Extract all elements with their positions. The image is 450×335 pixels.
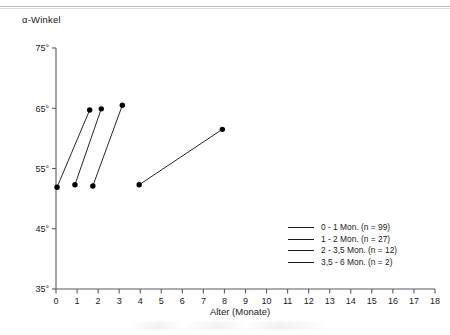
- x-axis-tick-label: 13: [325, 296, 335, 306]
- y-axis-tick-label: 55°: [35, 164, 49, 174]
- x-axis-tick-label: 18: [430, 296, 440, 306]
- x-axis-tick-label: 9: [243, 296, 248, 306]
- x-axis-tick-label: 14: [346, 296, 356, 306]
- data-point-marker[interactable]: [99, 106, 104, 111]
- legend-line-swatch: [288, 262, 314, 263]
- data-series: [54, 107, 92, 190]
- chart-page: α-Winkel 35°45°55°65°75°0123456789101112…: [0, 0, 450, 335]
- legend-item-label: 1 - 2 Mon. (n = 27): [321, 234, 390, 246]
- data-series: [136, 127, 225, 188]
- legend-item-label: 0 - 1 Mon. (n = 99): [321, 222, 390, 234]
- data-point-marker[interactable]: [54, 184, 59, 189]
- x-axis-tick-label: 6: [180, 296, 185, 306]
- x-axis-tick-label: 0: [53, 296, 58, 306]
- series-layer: [54, 103, 225, 190]
- x-axis-tick-label: 4: [138, 296, 143, 306]
- legend-line-swatch: [288, 250, 314, 251]
- x-axis-tick-label: 2: [96, 296, 101, 306]
- y-axis-tick-label: 65°: [35, 104, 49, 114]
- x-axis-tick-label: 16: [388, 296, 398, 306]
- data-point-marker[interactable]: [72, 182, 77, 187]
- data-point-marker[interactable]: [220, 127, 225, 132]
- chart-legend: 0 - 1 Mon. (n = 99) 1 - 2 Mon. (n = 27) …: [288, 222, 397, 268]
- y-axis-tick-label: 35°: [35, 284, 49, 294]
- x-axis-tick-label: 1: [75, 296, 80, 306]
- page-footer-artifact: [130, 322, 330, 330]
- data-point-marker[interactable]: [120, 103, 125, 108]
- x-axis-tick-label: 11: [283, 296, 292, 306]
- legend-line-swatch: [288, 239, 314, 240]
- x-axis-tick-label: 15: [367, 296, 377, 306]
- data-point-marker[interactable]: [90, 183, 95, 188]
- series-line-segment: [93, 105, 122, 186]
- x-axis-tick-label: 8: [222, 296, 227, 306]
- legend-item[interactable]: 2 - 3,5 Mon. (n = 12): [288, 245, 397, 257]
- legend-item[interactable]: 3,5 - 6 Mon. (n = 2): [288, 257, 397, 269]
- data-series: [90, 103, 125, 189]
- chart-plot-area: 35°45°55°65°75°0123456789101112131415161…: [0, 0, 450, 335]
- x-axis-tick-label: 12: [304, 296, 314, 306]
- x-axis-tick-label: 17: [409, 296, 419, 306]
- series-line-segment: [139, 129, 222, 184]
- y-axis-tick-label: 75°: [35, 43, 49, 53]
- data-point-marker[interactable]: [87, 107, 92, 112]
- legend-item-label: 2 - 3,5 Mon. (n = 12): [321, 245, 397, 257]
- x-axis-label: Alter (Monate): [210, 306, 270, 317]
- legend-item[interactable]: 1 - 2 Mon. (n = 27): [288, 234, 397, 246]
- series-line-segment: [57, 110, 90, 187]
- data-point-marker[interactable]: [136, 182, 141, 187]
- x-axis-tick-label: 3: [117, 296, 122, 306]
- legend-line-swatch: [288, 227, 314, 228]
- data-series: [72, 106, 104, 187]
- x-axis-tick-label: 10: [262, 296, 272, 306]
- x-axis-tick-label: 7: [201, 296, 206, 306]
- x-axis-tick-label: 5: [159, 296, 164, 306]
- legend-item-label: 3,5 - 6 Mon. (n = 2): [321, 257, 392, 269]
- y-axis-tick-label: 45°: [35, 224, 49, 234]
- legend-item[interactable]: 0 - 1 Mon. (n = 99): [288, 222, 397, 234]
